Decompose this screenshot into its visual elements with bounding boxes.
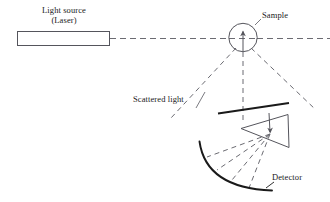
scattered-light-leader	[196, 92, 205, 108]
label-light-source: Light source (Laser)	[33, 6, 95, 25]
prism	[241, 115, 289, 148]
label-scattered-light: Scattered light	[133, 95, 184, 105]
label-detector: Detector	[272, 173, 302, 183]
detector-leader	[266, 182, 274, 188]
detector-arc	[200, 142, 273, 191]
laser-box	[18, 32, 110, 46]
scattered-ray-right	[251, 48, 316, 110]
sample-arrow	[240, 30, 246, 51]
lens-bar	[218, 103, 289, 114]
label-light-source-line1: Light source	[42, 5, 86, 15]
prism-arrow	[267, 113, 273, 134]
detector-ray-2	[217, 134, 270, 170]
light-scattering-diagram: Light source (Laser) Sample Scattered li…	[0, 0, 330, 202]
label-light-source-line2: (Laser)	[33, 16, 95, 26]
sample-leader	[255, 19, 261, 25]
scattered-ray-left	[171, 48, 236, 118]
detector-ray-4	[249, 134, 270, 188]
detector-ray-1	[207, 134, 270, 157]
label-sample: Sample	[262, 11, 288, 21]
